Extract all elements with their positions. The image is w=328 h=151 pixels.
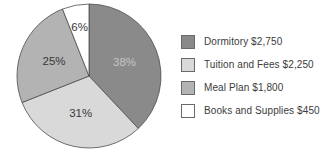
legend-label-dormitory: Dormitory $2,750 [204, 35, 282, 49]
legend: Dormitory $2,750 Tuition and Fees $2,250… [181, 35, 320, 118]
legend-swatch-tuition [181, 58, 195, 72]
pie-slice-pct-label-2: 25% [42, 55, 65, 67]
pie-slice-pct-label-1: 31% [69, 107, 92, 119]
pie-chart-figure: 38%31%25%6% Dormitory $2,750 Tuition and… [0, 0, 328, 151]
legend-item-books: Books and Supplies $450 [181, 104, 320, 118]
legend-swatch-dormitory [181, 35, 195, 49]
legend-swatch-books [181, 104, 195, 118]
legend-item-meal-plan: Meal Plan $1,800 [181, 81, 320, 95]
legend-label-tuition: Tuition and Fees $2,250 [204, 58, 314, 72]
legend-item-tuition: Tuition and Fees $2,250 [181, 58, 320, 72]
pie-slice-pct-label-3: 6% [71, 21, 88, 33]
legend-label-meal-plan: Meal Plan $1,800 [204, 81, 283, 95]
legend-label-books: Books and Supplies $450 [204, 104, 320, 118]
pie-chart: 38%31%25%6% [0, 0, 172, 151]
legend-item-dormitory: Dormitory $2,750 [181, 35, 320, 49]
pie-slice-pct-label-0: 38% [113, 56, 136, 68]
legend-swatch-meal-plan [181, 81, 195, 95]
